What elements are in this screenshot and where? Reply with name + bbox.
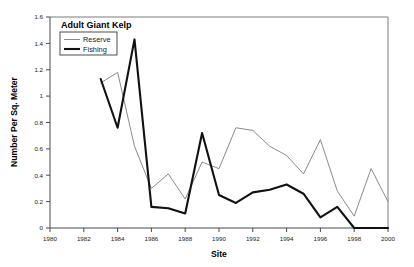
y-tick-label: 0.4	[34, 172, 43, 179]
x-tick-label: 1990	[212, 235, 226, 242]
chart-title: Adult Giant Kelp	[61, 20, 132, 30]
x-tick-label: 1992	[246, 235, 260, 242]
x-axis-title: Site	[211, 249, 227, 259]
y-tick-label: 0.2	[34, 198, 43, 205]
y-tick-label: 1	[40, 92, 44, 99]
x-tick-label: 1998	[347, 235, 361, 242]
line-chart-svg: 0 0.2 0.4 0.6 0.8 1 1.2 1.4 1.6 1980	[0, 0, 414, 267]
y-tick-label: 0	[40, 224, 44, 231]
y-axis-tick-labels: 0 0.2 0.4 0.6 0.8 1 1.2 1.4 1.6	[34, 13, 43, 231]
x-tick-label: 1996	[314, 235, 328, 242]
x-tick-label: 1982	[77, 235, 91, 242]
y-axis-title: Number Per Sq. Meter	[9, 76, 19, 166]
y-tick-label: 1.2	[34, 66, 43, 73]
chart-figure: 0 0.2 0.4 0.6 0.8 1 1.2 1.4 1.6 1980	[0, 0, 414, 267]
x-tick-label: 1988	[178, 235, 192, 242]
x-tick-label: 1980	[43, 235, 57, 242]
y-tick-label: 0.6	[34, 145, 43, 152]
y-tick-label: 1.4	[34, 40, 43, 47]
legend-label-fishing: Fishing	[83, 45, 107, 54]
y-tick-label: 0.8	[34, 119, 43, 126]
y-tick-label: 1.6	[34, 13, 43, 20]
legend: Reserve Fishing	[60, 32, 117, 55]
x-tick-label: 2000	[381, 235, 395, 242]
legend-label-reserve: Reserve	[83, 35, 111, 44]
x-tick-label: 1994	[280, 235, 294, 242]
x-tick-label: 1986	[145, 235, 159, 242]
x-tick-label: 1984	[111, 235, 125, 242]
